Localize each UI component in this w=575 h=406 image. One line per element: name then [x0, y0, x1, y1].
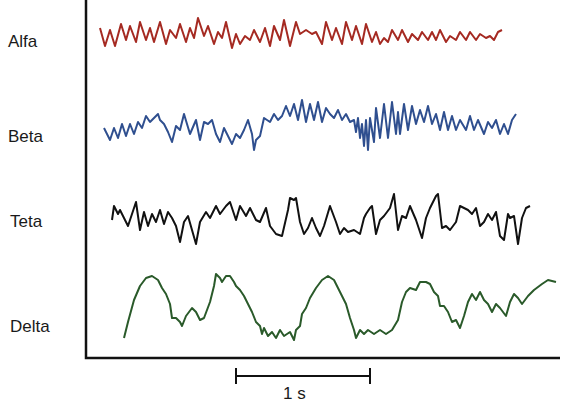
- beta-wave: [104, 100, 516, 150]
- eeg-waveforms-diagram: [0, 0, 575, 406]
- scale-bar: [236, 368, 370, 384]
- teta-wave: [112, 194, 530, 244]
- delta-wave: [124, 274, 556, 340]
- scale-bar-label: 1 s: [283, 384, 306, 404]
- alfa-wave: [100, 18, 502, 48]
